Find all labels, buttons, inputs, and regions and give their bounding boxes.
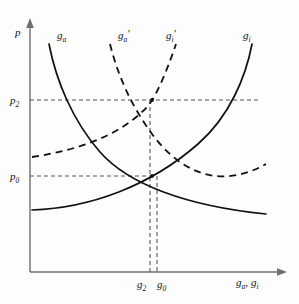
svg-text:g0: g0: [157, 278, 167, 293]
svg-text:ga′: ga′: [118, 27, 130, 44]
x-tick-label-g0: g0: [157, 278, 167, 293]
svg-text:ga,gi: ga,gi: [236, 276, 259, 291]
curve-group: [32, 44, 266, 214]
y-tick-label-p2: p2: [9, 94, 20, 109]
curve-label-g-a-prime-mark: ′: [127, 27, 130, 39]
svg-text:g2: g2: [137, 278, 147, 293]
intersection-point-upper: [150, 98, 154, 102]
svg-text:gi′: gi′: [166, 27, 177, 44]
svg-text:ga: ga: [57, 29, 67, 44]
curve-label-g-i-sub: i: [249, 35, 251, 44]
svg-text:gi: gi: [243, 29, 251, 44]
tick-p0-sub: 0: [16, 176, 20, 185]
y-axis-label: p: [14, 26, 21, 38]
x-tick-label-g2: g2: [137, 278, 147, 293]
curve-g-a-prime: [110, 44, 266, 176]
economics-diagram-svg: p ga,gi p2 p0 g2 g0: [0, 0, 299, 304]
guide-lines: [30, 100, 258, 272]
x-axis-label-second-sub: i: [257, 282, 259, 291]
curve-g-a: [49, 44, 266, 214]
tick-p2-sub: 2: [16, 100, 20, 109]
curve-label-g-a-sub: a: [63, 35, 67, 44]
figure-container: p ga,gi p2 p0 g2 g0: [0, 0, 299, 304]
x-axis-label-separator: ,: [245, 276, 248, 288]
y-axis-arrowhead: [26, 18, 34, 28]
intersection-point-lower: [150, 174, 154, 178]
x-axis-arrowhead: [277, 268, 287, 276]
curve-label-g-i: gi: [243, 29, 251, 44]
curve-g-i: [32, 44, 252, 210]
curve-label-g-a-prime: ga′: [118, 27, 130, 44]
tick-g0-sub: 0: [163, 284, 167, 293]
curve-label-g-a: ga: [57, 29, 67, 44]
x-axis-label: ga,gi: [236, 276, 259, 291]
tick-g2-sub: 2: [143, 284, 147, 293]
y-tick-label-p0: p0: [9, 170, 20, 185]
axes-group: [26, 18, 287, 276]
curve-label-g-i-prime: gi′: [166, 27, 177, 44]
svg-text:p2: p2: [9, 94, 20, 109]
svg-text:p0: p0: [9, 170, 20, 185]
intersection-markers: [150, 98, 154, 178]
curve-label-g-i-prime-mark: ′: [174, 27, 177, 39]
